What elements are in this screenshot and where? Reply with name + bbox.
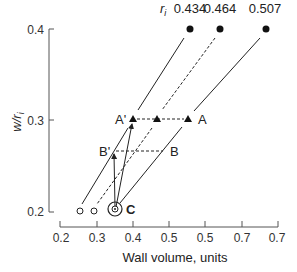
arrow-c-to-a-prime (116, 124, 132, 207)
bullseye-marker-dot (114, 208, 116, 210)
ri-value-0434: 0.434 (174, 1, 207, 16)
x-tick-label: 0.7 (234, 231, 251, 245)
ri-value-0464: 0.464 (204, 1, 237, 16)
y-axis-title-main: w/r (9, 114, 24, 132)
y-tick-label: 0.4 (27, 23, 44, 37)
y-axis: 0.4 0.3 0.2 w/ri (9, 23, 54, 219)
y-tick-label: 0.2 (27, 205, 44, 219)
x-tick-label: 0.4 (125, 231, 142, 245)
x-tick-label: 0.5 (197, 231, 214, 245)
series-lines (82, 38, 260, 207)
line-ri-0507-upper (194, 38, 260, 111)
x-tick-label: 0.7 (269, 231, 286, 245)
open-circle-marker (77, 208, 83, 214)
line-ri-0464-upper (162, 38, 215, 110)
y-axis-title-sub: i (16, 111, 26, 114)
line-ri-0434-lower (82, 128, 128, 204)
arrow-c-to-b-prime (114, 154, 115, 207)
filled-circle-marker (217, 26, 224, 33)
y-axis-title: w/ri (9, 111, 26, 131)
label-c: C (126, 202, 136, 217)
x-axis: 0.2 0.3 0.4 0.5 0.5 0.7 0.7 Wall volume,… (53, 221, 286, 265)
open-circle-marker (91, 208, 97, 214)
y-tick-label: 0.3 (27, 114, 44, 128)
triangle-marker (184, 115, 192, 122)
filled-circle-marker (263, 26, 270, 33)
x-axis-title: Wall volume, units (123, 250, 228, 265)
triangle-marker (129, 115, 137, 122)
ri-header: ri (160, 1, 167, 18)
label-a: A (198, 112, 207, 127)
label-b-prime: B' (99, 144, 110, 159)
label-a-prime: A' (115, 112, 126, 127)
label-b: B (170, 144, 179, 159)
ri-value-0507: 0.507 (249, 1, 282, 16)
ri-legend: ri 0.434 0.464 0.507 (160, 1, 281, 18)
x-tick-label: 0.5 (161, 231, 178, 245)
filled-circle-marker (187, 26, 194, 33)
line-ri-0434-upper (138, 38, 184, 110)
chart: 0.4 0.3 0.2 w/ri 0.2 0.3 0.4 0.5 0.5 0.7… (0, 0, 297, 272)
x-tick-label: 0.3 (89, 231, 106, 245)
x-tick-label: 0.2 (53, 231, 70, 245)
